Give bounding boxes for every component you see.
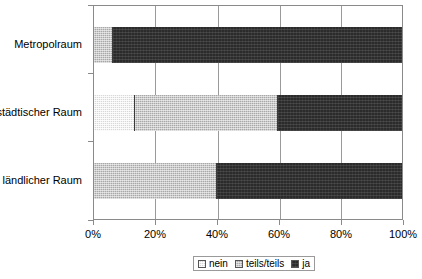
x-axis-tick-80 bbox=[341, 220, 342, 225]
y-axis: Metropolraum städtischer Raum ländlicher… bbox=[0, 5, 88, 220]
x-axis-tick-40 bbox=[217, 220, 218, 225]
x-axis-label-20: 20% bbox=[131, 228, 179, 240]
table-row bbox=[94, 95, 402, 131]
legend-swatch-ja-icon bbox=[291, 260, 299, 268]
bar-segment-ja bbox=[217, 163, 402, 199]
x-axis-label-40: 40% bbox=[193, 228, 241, 240]
legend-item-ja: ja bbox=[291, 258, 310, 269]
x-axis-tick-100 bbox=[403, 220, 404, 225]
y-axis-label-staedtischer-raum: städtischer Raum bbox=[0, 94, 82, 130]
legend-swatch-nein-icon bbox=[198, 260, 206, 268]
legend-item-teils-teils: teils/teils bbox=[235, 258, 284, 269]
x-axis-label-0: 0% bbox=[69, 228, 117, 240]
bar-group-metropolraum bbox=[94, 27, 402, 63]
bar-segment-ja bbox=[113, 27, 402, 63]
x-axis-label-80: 80% bbox=[317, 228, 365, 240]
legend-swatch-teils-teils-icon bbox=[235, 260, 243, 268]
bar-segment-teils-teils bbox=[94, 163, 217, 199]
bar-segment-teils-teils bbox=[135, 95, 278, 131]
x-axis-tick-20 bbox=[155, 220, 156, 225]
bar-segment-teils-teils bbox=[94, 27, 113, 63]
bar-group-staedtischer-raum bbox=[94, 95, 402, 131]
legend: nein teils/teils ja bbox=[193, 256, 315, 271]
x-axis-tick-60 bbox=[279, 220, 280, 225]
y-axis-label-metropolraum: Metropolraum bbox=[14, 26, 82, 62]
table-row bbox=[94, 163, 402, 199]
plot-area bbox=[93, 5, 403, 220]
bar-segment-nein bbox=[94, 95, 135, 131]
legend-label-ja: ja bbox=[302, 258, 310, 269]
legend-label-nein: nein bbox=[209, 258, 228, 269]
bar-group-laendlicher-raum bbox=[94, 163, 402, 199]
bar-segment-ja bbox=[278, 95, 402, 131]
x-axis-label-60: 60% bbox=[255, 228, 303, 240]
y-axis-label-laendlicher-raum: ländlicher Raum bbox=[3, 162, 82, 198]
legend-item-nein: nein bbox=[198, 258, 228, 269]
table-row bbox=[94, 27, 402, 63]
x-axis-tick-0 bbox=[93, 220, 94, 225]
x-axis-label-100: 100% bbox=[379, 228, 422, 240]
legend-label-teils-teils: teils/teils bbox=[246, 258, 284, 269]
